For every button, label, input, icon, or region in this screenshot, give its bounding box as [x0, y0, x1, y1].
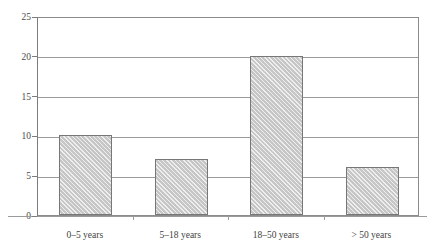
bar: [59, 135, 112, 215]
gridline-15: [38, 97, 418, 98]
plot-area: [37, 17, 419, 216]
y-tick-mark-15: [32, 96, 37, 97]
y-tick-mark-20: [32, 56, 37, 57]
x-axis-line: [8, 216, 427, 217]
gridline-20: [38, 57, 418, 58]
y-axis-line: [37, 17, 38, 217]
y-tick-label-15: 15: [22, 92, 32, 102]
y-tick-label-20: 20: [22, 52, 32, 62]
x-tick-label: 5–18 years: [160, 230, 201, 240]
x-tick-label: > 50 years: [351, 230, 391, 240]
x-tick-mark: [133, 216, 134, 220]
x-tick-label: 0–5 years: [66, 230, 103, 240]
x-tick-label: 18–50 years: [253, 230, 299, 240]
y-tick-mark-10: [32, 136, 37, 137]
bar: [155, 159, 208, 215]
y-tick-mark-25: [32, 17, 37, 18]
y-tick-label-5: 5: [26, 171, 31, 181]
x-tick-mark: [324, 216, 325, 220]
y-axis-tick-labels: 0510152025: [0, 0, 31, 251]
bar-chart-figure: 0510152025 0–5 years5–18 years18–50 year…: [0, 0, 439, 251]
x-tick-mark: [228, 216, 229, 220]
y-tick-mark-0: [32, 216, 37, 217]
y-tick-label-10: 10: [22, 131, 32, 141]
y-tick-label-25: 25: [22, 12, 32, 22]
bar: [346, 167, 399, 215]
y-tick-mark-5: [32, 176, 37, 177]
cropped-caption-bleed: [0, 0, 439, 2]
bar: [250, 56, 303, 215]
